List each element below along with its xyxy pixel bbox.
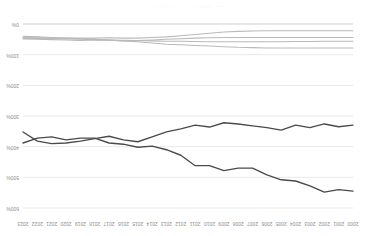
legend-label: Series 1 [195, 4, 213, 9]
x-tick-label-2009: 2009 [218, 221, 229, 226]
x-tick-label-2021: 2021 [46, 221, 57, 226]
x-tick-label-2017: 2017 [104, 221, 115, 226]
x-tick-label-2022: 2022 [32, 221, 43, 226]
legend-label: Series 2 [151, 4, 169, 9]
chart-plot-area [23, 24, 353, 208]
x-tick-label-2023: 2023 [17, 221, 28, 226]
x-tick-label-2015: 2015 [132, 221, 143, 226]
chart-figure: 2000200120022003200420052006200720082009… [0, 0, 375, 236]
x-tick-label-2003: 2003 [304, 221, 315, 226]
legend-item-2[interactable]: Series 2 [151, 4, 180, 9]
x-tick-label-2020: 2020 [60, 221, 71, 226]
y-tick-label-600: 600% [6, 206, 19, 211]
legend-swatch-icon [173, 6, 181, 7]
legend-item-1[interactable]: Series 1 [195, 4, 224, 9]
y-tick-label-300: 300% [6, 114, 19, 119]
x-tick-label-2008: 2008 [233, 221, 244, 226]
x-tick-label-2019: 2019 [75, 221, 86, 226]
series-line-1 [23, 137, 353, 192]
x-axis-tick-labels: 2000200120022003200420052006200720082009… [23, 212, 353, 226]
x-tick-label-2013: 2013 [161, 221, 172, 226]
series-line-2 [23, 123, 353, 144]
x-tick-label-2010: 2010 [204, 221, 215, 226]
x-tick-label-2007: 2007 [247, 221, 258, 226]
x-tick-label-2000: 2000 [347, 221, 358, 226]
y-tick-label-200: 200% [6, 83, 19, 88]
y-axis-tick-labels: 0%100%200%300%400%500%600% [0, 24, 19, 208]
x-tick-label-2014: 2014 [147, 221, 158, 226]
legend-swatch-icon [216, 6, 224, 7]
x-tick-label-2016: 2016 [118, 221, 129, 226]
y-tick-label-0: 0% [12, 22, 19, 27]
y-tick-label-500: 500% [6, 175, 19, 180]
x-tick-label-2011: 2011 [190, 221, 201, 226]
y-tick-label-100: 100% [6, 52, 19, 57]
gridlines [23, 24, 353, 208]
x-tick-label-2012: 2012 [175, 221, 186, 226]
x-tick-label-2004: 2004 [290, 221, 301, 226]
x-tick-label-2005: 2005 [276, 221, 287, 226]
x-tick-label-2018: 2018 [89, 221, 100, 226]
x-tick-label-2006: 2006 [261, 221, 272, 226]
x-tick-label-2001: 2001 [333, 221, 344, 226]
y-tick-label-400: 400% [6, 144, 19, 149]
chart-legend: Series 1Series 2 [0, 4, 375, 9]
chart-svg [23, 24, 353, 208]
x-tick-label-2002: 2002 [319, 221, 330, 226]
